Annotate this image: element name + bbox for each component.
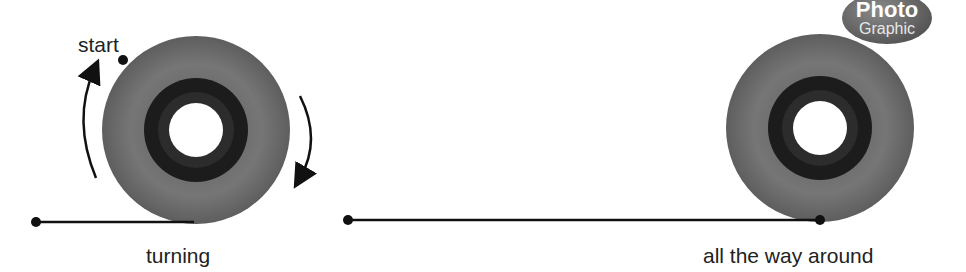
path-end-dot: [815, 215, 825, 225]
badge-line1: Photo: [842, 0, 932, 21]
turning-caption: turning: [146, 244, 210, 268]
arrow-up-icon: [83, 70, 96, 178]
arrow-down-icon: [300, 96, 311, 178]
all-the-way-around-caption: all the way around: [703, 244, 873, 268]
path-start-dot: [31, 217, 41, 227]
path-start-dot-2: [343, 215, 353, 225]
wheel-turning: [102, 36, 290, 224]
start-label: start: [78, 33, 119, 57]
diagram-canvas: [0, 0, 966, 272]
wheel-full-turn: [726, 34, 914, 222]
start-point: [118, 55, 128, 65]
badge-line2: Graphic: [842, 21, 932, 37]
